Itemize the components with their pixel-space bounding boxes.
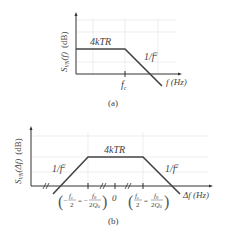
left-slope-label-b: 1/f2 bbox=[52, 163, 66, 174]
svg-text:f0: f0 bbox=[92, 192, 97, 200]
slope-label-a: 1/f2 bbox=[144, 51, 158, 62]
panel-a: 4kTR 1/f2 fc f (Hz) SVN(f)(dB) (a) bbox=[59, 12, 187, 108]
spectrum-curve-b bbox=[53, 157, 180, 194]
x-axis-label-a: f (Hz) bbox=[166, 77, 187, 87]
svg-text:−: − bbox=[84, 197, 88, 205]
svg-text:−: − bbox=[63, 197, 68, 205]
grid-b bbox=[31, 132, 208, 186]
svg-text:): ) bbox=[102, 193, 107, 211]
svg-text:f0: f0 bbox=[154, 192, 159, 200]
left-tick-label: ( − fc 2 = − f0 2Q0 ) bbox=[58, 192, 107, 211]
caption-b: (b) bbox=[108, 216, 119, 226]
zero-tick-label: 0 bbox=[112, 193, 117, 203]
svg-text:): ) bbox=[164, 193, 169, 211]
svg-text:=: = bbox=[144, 197, 148, 205]
plateau-label-a: 4kTR bbox=[90, 36, 111, 47]
caption-a: (a) bbox=[108, 98, 118, 108]
panel-b: 4kTR 1/f2 1/f2 0 ( − fc 2 = − f0 2Q0 ) (… bbox=[13, 126, 213, 226]
svg-text:2Q0: 2Q0 bbox=[151, 201, 163, 209]
noise-spectrum-diagram: 4kTR 1/f2 fc f (Hz) SVN(f)(dB) (a) bbox=[0, 0, 230, 243]
svg-text:SVN(Δf)(dB): SVN(Δf)(dB) bbox=[13, 138, 24, 184]
svg-text:2: 2 bbox=[70, 201, 74, 209]
y-axis-label-b: SVN(Δf)(dB) bbox=[13, 138, 24, 184]
svg-text:SVN(f)(dB): SVN(f)(dB) bbox=[59, 31, 70, 72]
svg-text:fc: fc bbox=[69, 192, 73, 200]
plateau-label-b: 4kTR bbox=[104, 144, 125, 155]
svg-text:2Q0: 2Q0 bbox=[89, 201, 101, 209]
svg-text:2: 2 bbox=[136, 201, 140, 209]
svg-text:=: = bbox=[78, 197, 82, 205]
y-axis-label-a: SVN(f)(dB) bbox=[59, 31, 70, 72]
fc-tick-label: fc bbox=[121, 79, 127, 91]
svg-text:(: ( bbox=[128, 193, 133, 211]
svg-text:fc: fc bbox=[135, 192, 139, 200]
right-slope-label-b: 1/f2 bbox=[165, 163, 179, 174]
x-axis-label-b: Δf (Hz) bbox=[182, 190, 209, 200]
right-tick-label: ( fc 2 = f0 2Q0 ) bbox=[128, 192, 169, 211]
